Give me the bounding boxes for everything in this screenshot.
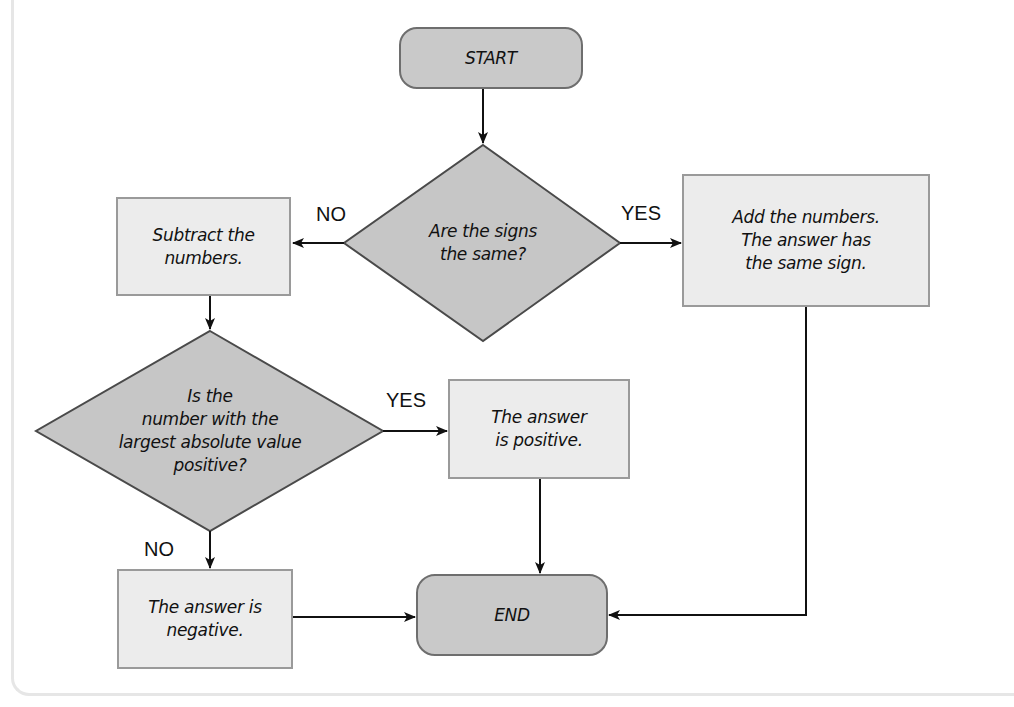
add-box <box>683 175 929 306</box>
signs-yes-label: YES <box>621 202 661 225</box>
subtract-box <box>117 198 290 295</box>
signs-same-decision <box>344 145 620 341</box>
signs-no-label: NO <box>316 203 346 226</box>
largest-yes-label: YES <box>386 389 426 412</box>
largest-positive-decision <box>36 331 383 531</box>
answer-positive-box <box>449 380 629 478</box>
answer-negative-box <box>118 570 292 668</box>
start-terminal <box>400 28 582 88</box>
arrow-add-to-end <box>609 307 806 615</box>
largest-no-label: NO <box>144 538 174 561</box>
end-terminal <box>417 575 607 655</box>
